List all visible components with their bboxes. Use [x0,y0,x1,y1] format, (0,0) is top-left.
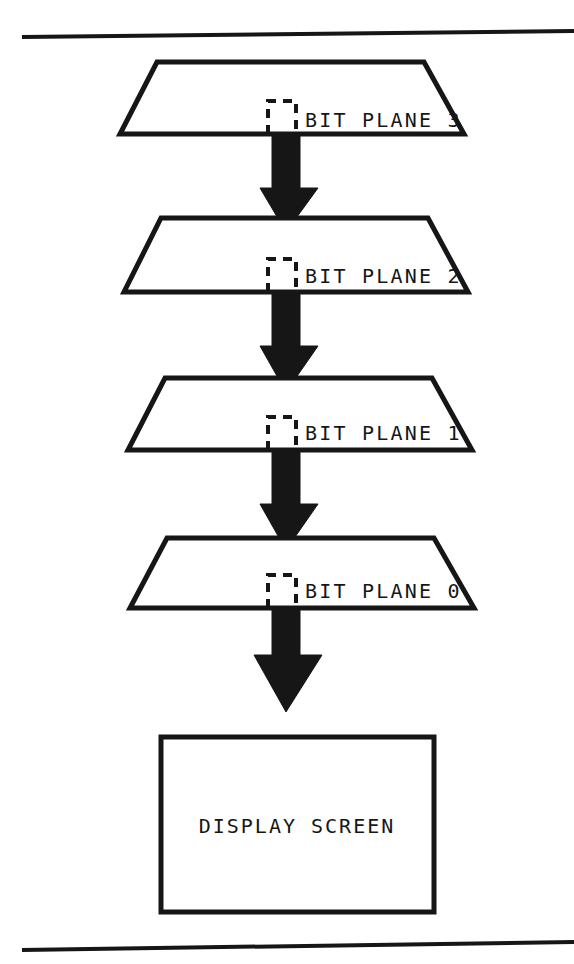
bit-plane-diagram: BIT PLANE 3BIT PLANE 2BIT PLANE 1BIT PLA… [0,0,574,964]
bit-plane-1: BIT PLANE 2 [124,218,468,292]
bit-plane-0: BIT PLANE 3 [120,62,464,134]
bit-plane-label: BIT PLANE 3 [305,108,462,132]
display-screen-group: DISPLAY SCREEN [161,737,434,912]
bit-plane-3: BIT PLANE 0 [130,538,474,608]
bit-plane-label: BIT PLANE 0 [305,579,462,603]
bit-plane-label: BIT PLANE 1 [305,421,462,445]
bit-plane-2: BIT PLANE 1 [128,378,472,450]
display-screen-label: DISPLAY SCREEN [199,814,396,838]
bit-plane-label: BIT PLANE 2 [305,264,462,288]
diagram-canvas: BIT PLANE 3BIT PLANE 2BIT PLANE 1BIT PLA… [0,0,574,964]
